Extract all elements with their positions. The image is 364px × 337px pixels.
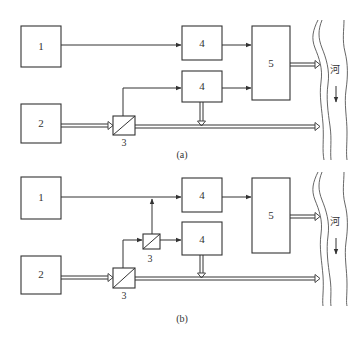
splitter-3-a: 3 xyxy=(113,116,135,148)
diagram-b: 1 2 3 3 xyxy=(21,172,347,325)
pipe-4-down-b xyxy=(198,255,206,278)
river-a-label: 河 xyxy=(330,64,340,75)
box-4-top-b: 4 xyxy=(182,178,222,212)
pipe-5-to-river-a xyxy=(290,61,320,69)
splitter-3-main-b-label: 3 xyxy=(122,290,127,301)
box-4-top-a-label: 4 xyxy=(199,37,205,49)
pipe-4-down-a xyxy=(198,102,206,126)
pipe-2-to-3-a xyxy=(61,122,113,130)
diagram-a: 1 2 3 4 4 xyxy=(21,20,347,161)
pipe-3-to-river-a xyxy=(135,123,320,131)
caption-b: (b) xyxy=(176,313,188,325)
caption-a: (a) xyxy=(176,149,187,161)
flow-3main-to-3small-b xyxy=(123,240,142,268)
box-2-b: 2 xyxy=(21,256,61,294)
box-5-b: 5 xyxy=(252,178,290,253)
flow-diagram-figure: 1 2 3 4 4 xyxy=(0,0,364,337)
box-4-bottom-b-label: 4 xyxy=(199,233,205,245)
box-1-a-label: 1 xyxy=(38,40,44,52)
pipe-2-to-3-b xyxy=(61,274,113,282)
box-2-a-label: 2 xyxy=(38,117,44,129)
box-2-b-label: 2 xyxy=(38,268,44,280)
box-2-a: 2 xyxy=(21,104,61,143)
box-4-top-a: 4 xyxy=(182,26,222,60)
box-4-top-b-label: 4 xyxy=(199,189,205,201)
splitter-3-secondary-b-label: 3 xyxy=(148,253,153,264)
pipe-5-to-river-b xyxy=(290,213,320,221)
river-b-label: 河 xyxy=(330,216,340,227)
box-1-a: 1 xyxy=(21,26,61,67)
box-4-bottom-a-label: 4 xyxy=(199,80,205,92)
splitter-3-a-label: 3 xyxy=(122,137,127,148)
box-4-bottom-a: 4 xyxy=(182,71,222,102)
river-b: 河 xyxy=(313,172,348,306)
box-1-b: 1 xyxy=(21,177,61,219)
box-1-b-label: 1 xyxy=(38,191,44,203)
box-5-b-label: 5 xyxy=(268,209,274,221)
pipe-3-to-river-b xyxy=(135,275,320,283)
box-4-bottom-b: 4 xyxy=(182,222,222,255)
box-5-a: 5 xyxy=(252,26,290,100)
flow-3-to-4-a xyxy=(123,88,181,116)
river-a: 河 xyxy=(313,20,348,160)
box-5-a-label: 5 xyxy=(268,57,274,69)
splitter-3-secondary-b: 3 xyxy=(143,234,160,264)
splitter-3-main-b: 3 xyxy=(113,268,135,301)
